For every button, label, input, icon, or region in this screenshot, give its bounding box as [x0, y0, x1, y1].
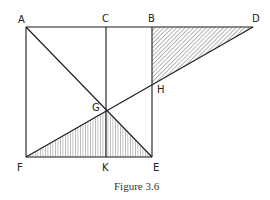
label-g: G: [92, 102, 100, 113]
label-c: C: [102, 13, 109, 24]
shaded-triangle-fge: [26, 111, 152, 157]
label-d: D: [252, 13, 260, 24]
label-b: B: [148, 13, 155, 24]
label-k: K: [102, 162, 109, 173]
label-f: F: [17, 162, 23, 173]
geometry-figure: A C B D G H F K E Figure 3.6: [0, 0, 270, 200]
line-fd: [26, 27, 253, 157]
label-e: E: [153, 162, 159, 173]
label-h: H: [157, 84, 165, 95]
label-a: A: [18, 14, 25, 25]
figure-caption: Figure 3.6: [114, 180, 160, 192]
